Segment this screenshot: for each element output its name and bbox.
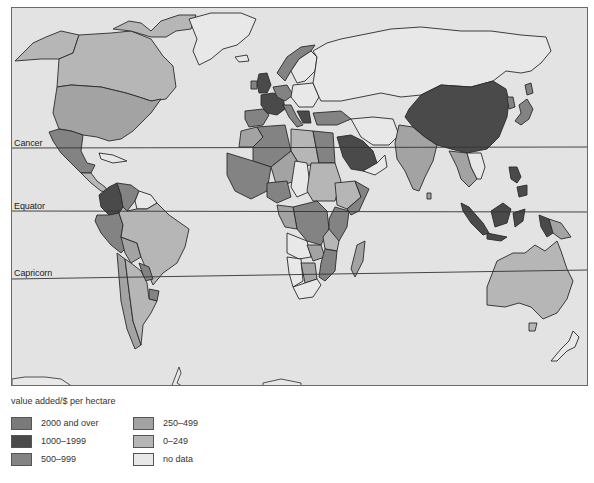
legend-item-250-499: 250–499 xyxy=(133,416,198,430)
legend-swatch xyxy=(133,435,154,448)
legend-swatch xyxy=(11,435,32,448)
legend-item-1000-1999: 1000–1999 xyxy=(11,434,86,448)
region-turkey xyxy=(313,111,351,125)
region-papua-new-guinea xyxy=(549,219,571,239)
region-japan xyxy=(515,99,533,125)
region-philippines-south xyxy=(517,185,527,197)
equator-label: Equator xyxy=(14,201,45,211)
legend-label: 1000–1999 xyxy=(41,436,86,446)
region-tasmania xyxy=(529,323,537,331)
region-hokkaido xyxy=(525,83,533,95)
region-ireland xyxy=(251,81,257,89)
region-uk xyxy=(257,73,271,93)
region-antarctica xyxy=(12,377,73,386)
world-map: Cancer Equator Capricorn xyxy=(11,7,588,386)
region-antarctica-peninsula xyxy=(171,367,185,386)
region-australia xyxy=(487,241,573,319)
cancer-label: Cancer xyxy=(14,138,42,148)
legend-label: 250–499 xyxy=(163,418,198,428)
legend-item-2000-plus: 2000 and over xyxy=(11,416,99,430)
region-borneo xyxy=(491,203,511,227)
legend-item-0-249: 0–249 xyxy=(133,434,188,448)
region-new-zealand xyxy=(551,331,579,361)
tropic-of-cancer-line xyxy=(12,147,588,148)
region-sri-lanka xyxy=(427,193,431,199)
region-antarctica-east xyxy=(263,379,301,386)
legend-item-500-999: 500–999 xyxy=(11,452,76,466)
legend-swatch xyxy=(11,417,32,430)
region-iceland xyxy=(235,55,249,62)
region-namibia xyxy=(287,257,303,287)
legend-label: 500–999 xyxy=(41,454,76,464)
region-cuba xyxy=(99,153,127,163)
region-nigeria xyxy=(267,181,291,203)
legend-swatch xyxy=(133,417,154,430)
legend-item-no-data: no data xyxy=(133,452,193,466)
legend-label: 0–249 xyxy=(163,436,188,446)
region-java xyxy=(487,233,507,241)
legend-label: no data xyxy=(163,454,193,464)
legend-label: 2000 and over xyxy=(41,418,99,428)
map-svg xyxy=(11,7,588,386)
legend-title: value added/$ per hectare xyxy=(11,396,116,406)
legend-swatch xyxy=(133,453,154,466)
capricorn-label: Capricorn xyxy=(14,268,52,278)
legend-swatch xyxy=(11,453,32,466)
region-philippines xyxy=(509,167,521,183)
region-sumatra xyxy=(461,203,489,235)
region-madagascar xyxy=(351,241,365,277)
region-spain xyxy=(245,109,269,127)
